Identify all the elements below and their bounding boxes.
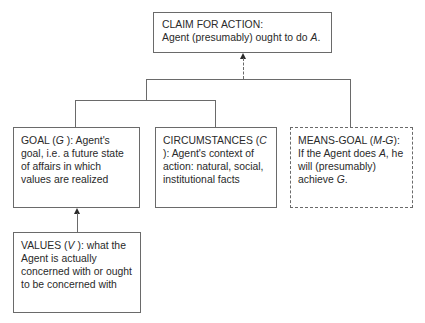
claim-for-action-box: CLAIM FOR ACTION: Agent (presumably) oug… — [153, 12, 332, 53]
connector-circumstances — [215, 100, 216, 128]
goal-box: GOAL (G ): Agent's goal, i.e. a future s… — [13, 127, 140, 208]
values-box: VALUES (V ): what the Agent is actually … — [13, 232, 141, 313]
connector-means-goal — [350, 79, 351, 128]
values-text: VALUES (V ): what the Agent is actually … — [21, 239, 133, 291]
means-goal-box: MEANS-GOAL (M-G): If the Agent does A, h… — [290, 127, 413, 208]
dashed-connector — [243, 58, 244, 79]
connector-goal — [75, 100, 76, 128]
connector-values-goal — [77, 213, 78, 232]
means-goal-text: MEANS-GOAL (M-G): If the Agent does A, h… — [298, 134, 405, 186]
connector-left-group — [146, 79, 147, 100]
claim-title: CLAIM FOR ACTION: — [162, 18, 323, 31]
circumstances-text: CIRCUMSTANCES (C ): Agent's context of a… — [163, 134, 269, 186]
goal-text: GOAL (G ): Agent's goal, i.e. a future s… — [21, 134, 132, 186]
connector-lower-horizontal — [75, 100, 216, 101]
circumstances-box: CIRCUMSTANCES (C ): Agent's context of a… — [155, 127, 277, 208]
connector-upper-horizontal — [146, 79, 351, 80]
claim-body: Agent (presumably) ought to do A. — [162, 31, 323, 44]
